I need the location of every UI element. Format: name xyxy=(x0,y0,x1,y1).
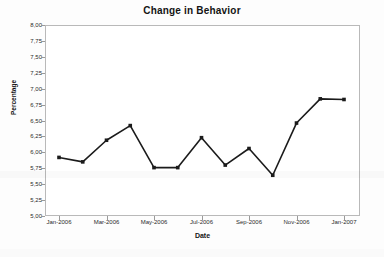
y-tick-label: 5,00 xyxy=(8,213,42,219)
y-tick-label: 6,50 xyxy=(8,118,42,124)
data-point-marker xyxy=(81,160,85,164)
data-point-marker xyxy=(128,124,132,128)
x-tick-mark xyxy=(249,216,250,220)
y-tick-label: 6,25 xyxy=(8,133,42,139)
y-tick-label: 7,75 xyxy=(8,38,42,44)
data-point-marker xyxy=(105,138,109,142)
y-tick-label: 5,75 xyxy=(8,165,42,171)
x-tick-mark xyxy=(344,216,345,220)
y-tick-label: 8,00 xyxy=(8,22,42,28)
series-markers xyxy=(57,97,346,177)
data-point-marker xyxy=(247,147,251,151)
x-tick-mark xyxy=(297,216,298,220)
x-tick-mark xyxy=(107,216,108,220)
y-tick-mark xyxy=(41,216,45,217)
y-tick-label: 6,00 xyxy=(8,149,42,155)
data-point-marker xyxy=(318,97,322,101)
y-tick-label: 5,50 xyxy=(8,181,42,187)
data-point-marker xyxy=(271,173,275,177)
data-series xyxy=(45,25,360,216)
line-chart: Change in Behavior Percentage 5,005,255,… xyxy=(0,0,384,257)
data-point-marker xyxy=(176,166,180,170)
data-point-marker xyxy=(223,163,227,167)
y-tick-label: 7,25 xyxy=(8,70,42,76)
chart-title: Change in Behavior xyxy=(0,5,384,16)
data-point-marker xyxy=(342,98,346,102)
y-tick-label: 7,00 xyxy=(8,86,42,92)
data-point-marker xyxy=(152,166,156,170)
x-tick-mark xyxy=(59,216,60,220)
x-tick-mark xyxy=(202,216,203,220)
y-tick-label: 6,75 xyxy=(8,102,42,108)
x-tick-mark xyxy=(154,216,155,220)
scan-artifact-band-lower xyxy=(0,249,384,257)
y-tick-label: 5,25 xyxy=(8,197,42,203)
x-axis-title: Date xyxy=(45,232,360,239)
data-point-marker xyxy=(57,156,61,160)
data-point-marker xyxy=(295,121,299,125)
data-point-marker xyxy=(200,136,204,140)
y-tick-label: 7,50 xyxy=(8,54,42,60)
